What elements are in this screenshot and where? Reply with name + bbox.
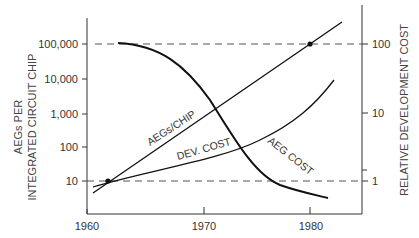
data-marker <box>307 41 312 46</box>
x-ticks <box>87 207 310 214</box>
x-tick-label: 1960 <box>75 220 99 232</box>
x-tick-label: 1980 <box>299 220 323 232</box>
left-tick-label: 10 <box>66 175 78 187</box>
x-tick-label: 1970 <box>192 220 216 232</box>
left-tick-label: 100 <box>60 141 78 153</box>
chart: 100,000 10,000 1,000 100 10 100 10 1 196… <box>0 0 419 238</box>
right-tick-label: 1 <box>372 175 378 187</box>
curve-label-dev-cost: DEV. COST <box>175 135 232 162</box>
left-tick-label: 1,000 <box>50 108 78 120</box>
left-axis-label-line2: INTEGRATED CIRCUIT CHIP <box>26 54 38 201</box>
left-ticks <box>82 44 87 181</box>
series-aeg-cost <box>118 43 328 198</box>
right-ticks <box>362 44 368 181</box>
series-dev-cost <box>93 80 334 187</box>
left-tick-label: 10,000 <box>44 73 78 85</box>
right-tick-label: 10 <box>372 107 384 119</box>
right-tick-label: 100 <box>372 38 390 50</box>
curve-label-aeg-cost: AEG COST <box>266 134 317 177</box>
curve-label-aegs-chip: AEGs/CHIP <box>145 107 198 147</box>
left-axis-label-line1: AEGs PER <box>12 100 24 154</box>
right-axis-label: RELATIVE DEVELOPMENT COST <box>398 24 410 196</box>
left-tick-label: 100,000 <box>38 38 78 50</box>
